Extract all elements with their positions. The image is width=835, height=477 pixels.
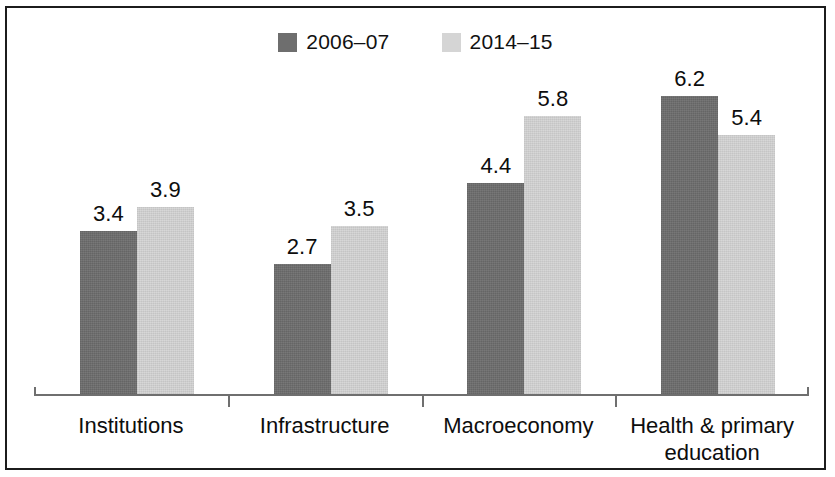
- axis-tick: [615, 394, 617, 407]
- category-label: Infrastructure: [228, 412, 422, 439]
- legend-swatch-2006-07: [278, 33, 297, 52]
- bar-value-label: 2.7: [287, 234, 318, 260]
- bar-chart: 2006–07 2014–15 3.43.92.73.54.45.86.25.4…: [7, 8, 824, 468]
- bar-value-label: 5.4: [731, 105, 762, 131]
- bar-series2: [137, 207, 194, 394]
- bar-series2: [524, 116, 581, 394]
- category-label: Macroeconomy: [422, 412, 616, 439]
- figure-frame: 2006–07 2014–15 3.43.92.73.54.45.86.25.4…: [5, 6, 826, 470]
- axis-tick-end: [807, 387, 809, 396]
- legend-entry-2014-15: 2014–15: [442, 30, 553, 54]
- bar-value-label: 3.9: [150, 177, 181, 203]
- bar-value-label: 5.8: [538, 86, 569, 112]
- chart-legend: 2006–07 2014–15: [7, 30, 824, 54]
- plot-area: 3.43.92.73.54.45.86.25.4: [34, 58, 809, 394]
- bar-series1: [661, 96, 718, 394]
- legend-label-2014-15: 2014–15: [470, 30, 553, 54]
- axis-tick-start: [34, 387, 36, 396]
- legend-swatch-2014-15: [442, 33, 461, 52]
- legend-label-2006-07: 2006–07: [306, 30, 389, 54]
- bar-value-label: 4.4: [481, 153, 512, 179]
- category-label: Health & primary education: [615, 412, 809, 466]
- bar-series1: [467, 183, 524, 394]
- legend-entry-2006-07: 2006–07: [278, 30, 389, 54]
- bar-series2: [331, 226, 388, 394]
- bar-series1: [80, 231, 137, 394]
- bar-value-label: 3.4: [93, 201, 124, 227]
- bar-group: 3.43.9: [80, 58, 194, 394]
- axis-tick: [228, 394, 230, 407]
- bar-series1: [274, 264, 331, 394]
- axis-tick: [422, 394, 424, 407]
- bar-value-label: 6.2: [674, 66, 705, 92]
- bar-group: 4.45.8: [467, 58, 581, 394]
- category-axis: [34, 394, 809, 410]
- category-label: Institutions: [34, 412, 228, 439]
- bar-group: 6.25.4: [661, 58, 775, 394]
- bar-value-label: 3.5: [344, 196, 375, 222]
- bar-series2: [718, 135, 775, 394]
- category-labels: InstitutionsInfrastructureMacroeconomyHe…: [34, 412, 809, 470]
- bar-group: 2.73.5: [274, 58, 388, 394]
